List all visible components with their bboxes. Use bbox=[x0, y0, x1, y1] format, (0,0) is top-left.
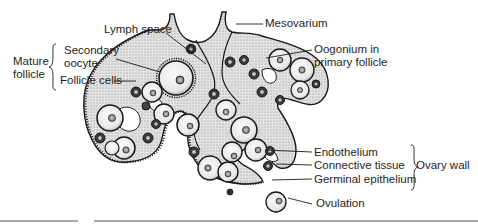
label-mesovarium: Mesovarium bbox=[265, 17, 328, 30]
label-mature-follicle: Mature follicle bbox=[13, 55, 49, 80]
label-follicle-cells: Follicle cells bbox=[60, 74, 122, 87]
label-germinal-epithelium: Germinal epithelium bbox=[314, 173, 416, 186]
label-oogonium-line1: Oogonium in bbox=[314, 43, 388, 56]
label-lymph-space: Lymph space bbox=[104, 23, 172, 36]
label-mature-follicle-line2: follicle bbox=[13, 68, 49, 81]
label-ovary-wall: Ovary wall bbox=[416, 159, 470, 172]
label-secondary-oocyte: Secondary oocyte bbox=[64, 44, 119, 69]
label-secondary-oocyte-line1: Secondary bbox=[64, 44, 119, 57]
label-endothelium: Endothelium bbox=[314, 146, 378, 159]
label-ovulation: Ovulation bbox=[316, 197, 365, 210]
label-oogonium-line2: primary follicle bbox=[314, 56, 388, 69]
label-secondary-oocyte-line2: oocyte bbox=[64, 57, 119, 70]
label-mature-follicle-line1: Mature bbox=[13, 55, 49, 68]
label-connective-tissue: Connective tissue bbox=[314, 159, 405, 172]
ovary-diagram bbox=[0, 0, 478, 224]
label-oogonium: Oogonium in primary follicle bbox=[314, 43, 388, 68]
